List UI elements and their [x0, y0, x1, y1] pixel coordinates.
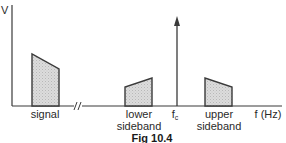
upper-sideband-label-line1: upper — [205, 108, 233, 120]
upper-sideband-label-line2: sideband — [197, 120, 242, 132]
figure-caption: Fig 10.4 — [132, 132, 174, 143]
axis-break-icon — [74, 102, 82, 110]
signal-label: signal — [31, 108, 60, 120]
upper-sideband-band — [205, 78, 232, 106]
carrier-arrow — [174, 16, 180, 106]
spectrum-diagram: V signal lower sideband fc upper sideban… — [0, 0, 286, 143]
lower-sideband-band — [125, 78, 152, 106]
carrier-label: fc — [172, 108, 179, 121]
signal-band — [32, 54, 59, 106]
lower-sideband-label-line1: lower — [126, 108, 153, 120]
x-axis-label: f (Hz) — [255, 108, 282, 120]
y-axis-label: V — [1, 4, 9, 16]
carrier-label-sub: c — [175, 114, 179, 121]
arrow-head-icon — [174, 16, 180, 26]
lower-sideband-label-line2: sideband — [117, 120, 162, 132]
